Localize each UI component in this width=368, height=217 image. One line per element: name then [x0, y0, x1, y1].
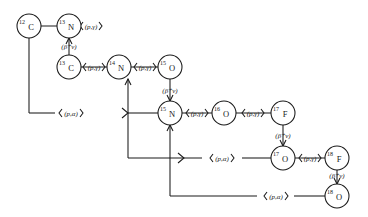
reaction-label-o16-f17: (p,γ) [247, 110, 260, 118]
node-f18-element: F [337, 154, 342, 164]
reaction-label-n15-o16: (p,γ) [191, 110, 204, 118]
node-c13-mass: 13 [59, 60, 65, 66]
reaction-label-n13-c13: (β⁺ν) [61, 43, 77, 51]
node-o15-mass: 15 [160, 60, 166, 66]
reaction-label-pa-top: (p,α) [64, 110, 78, 118]
node-n13-element: N [68, 22, 74, 32]
node-o18-element: O [336, 192, 342, 202]
reaction-label-c12-n13: (p,γ) [85, 23, 98, 31]
node-o18-mass: 18 [327, 189, 333, 195]
node-n15-mass: 15 [160, 106, 166, 112]
node-o17-mass: 17 [273, 151, 279, 157]
arrowhead-pa1-junction [122, 108, 128, 118]
reaction-label-c13-n14: (p,γ) [88, 64, 101, 72]
reaction-label-o17-f18: (p,γ) [304, 155, 317, 163]
node-f18-mass: 18 [327, 151, 333, 157]
diagram-canvas: 12 C 13 N 13 C 14 N 15 O 15 N 16 O 17 F … [0, 0, 368, 217]
reaction-label-f17-o17: (β⁺ν) [275, 132, 291, 140]
node-c12-mass: 12 [19, 19, 25, 25]
node-n13-mass: 13 [59, 19, 65, 25]
node-o17-element: O [282, 154, 288, 164]
node-c13-element: C [68, 63, 74, 73]
node-n14-mass: 14 [109, 60, 115, 66]
node-n14-element: N [118, 63, 124, 73]
node-o16-mass: 16 [214, 106, 220, 112]
node-f17-mass: 17 [273, 106, 279, 112]
reaction-label-o15-n15: (β⁺ν) [162, 87, 178, 95]
reaction-label-layer: (p,γ) (β⁺ν) (p,γ) (p,γ) (β⁺ν) (p,γ) (p,γ… [61, 23, 345, 201]
reaction-label-pa-mid: (p,α) [215, 155, 229, 163]
node-o16-element: O [223, 109, 229, 119]
node-n15-element: N [169, 109, 175, 119]
reaction-label-pa-bot: (p,α) [269, 193, 283, 201]
node-f17-element: F [283, 109, 288, 119]
node-o15-element: O [169, 63, 175, 73]
reaction-label-n14-o15: (p,γ) [139, 64, 152, 72]
reaction-label-f18-o18: (β⁺ν) [329, 172, 345, 180]
node-c12-element: C [28, 22, 34, 32]
cno-cycle-diagram: 12 C 13 N 13 C 14 N 15 O 15 N 16 O 17 F … [0, 0, 368, 217]
